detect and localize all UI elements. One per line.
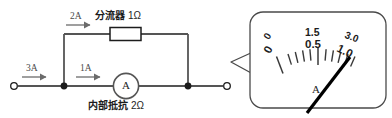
label-shunt-resistor-name: 分流器 bbox=[95, 10, 125, 21]
label-internal-resistance-value: 2Ω bbox=[131, 100, 144, 111]
junction-node-right bbox=[185, 83, 192, 90]
label-internal-resistance: 内部抵抗2Ω bbox=[88, 101, 144, 111]
ammeter-symbol-letter: A bbox=[122, 80, 130, 91]
terminal-right bbox=[224, 83, 231, 90]
label-shunt-resistor-value: 1Ω bbox=[128, 10, 141, 21]
junction-node-left bbox=[61, 83, 68, 90]
figure-canvas: 3A 1A 2A 分流器1Ω 内部抵抗2Ω A 0 0 1.5 0.5 3.0 … bbox=[0, 0, 392, 118]
meter-inner-mid-label: 0.5 bbox=[305, 39, 321, 51]
tick-minor bbox=[310, 49, 311, 60]
tick-minor bbox=[325, 49, 326, 60]
label-shunt-resistor: 分流器1Ω bbox=[95, 11, 141, 21]
label-ammeter-branch-current: 1A bbox=[80, 64, 92, 74]
label-shunt-branch-current: 2A bbox=[70, 12, 82, 22]
shunt-resistor-box bbox=[110, 28, 141, 41]
label-internal-resistance-name: 内部抵抗 bbox=[88, 100, 128, 111]
arrow-3a-head bbox=[40, 74, 47, 81]
circuit-and-meter-graphics bbox=[0, 0, 392, 118]
arrow-2a-head bbox=[84, 22, 91, 29]
meter-outer-mid-label: 1.5 bbox=[305, 27, 320, 38]
terminal-left bbox=[11, 83, 18, 90]
arrow-1a-head bbox=[94, 74, 101, 81]
meter-unit-label: A bbox=[312, 84, 320, 95]
label-input-current: 3A bbox=[26, 64, 38, 74]
